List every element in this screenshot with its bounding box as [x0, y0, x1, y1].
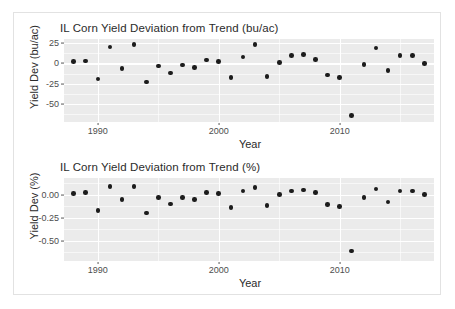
y-tick-label: 0 — [54, 58, 59, 68]
data-point-bu-per-ac — [120, 66, 125, 71]
gridline-minor-vertical — [400, 39, 401, 122]
data-point-bu-per-ac — [253, 42, 258, 47]
data-point-bu-per-ac — [229, 75, 234, 80]
data-point-bu-per-ac — [398, 53, 403, 58]
data-point-percent — [301, 188, 306, 193]
data-point-percent — [132, 184, 137, 189]
y-axis-title-bu-per-ac: Yield Dev (bu/ac) — [28, 21, 40, 113]
data-point-percent — [216, 191, 221, 196]
x-tick-mark — [218, 123, 219, 125]
figure-container: IL Corn Yield Deviation from Trend (bu/a… — [13, 12, 441, 295]
data-point-percent — [204, 190, 209, 195]
x-tick-mark — [339, 262, 340, 264]
x-tick-label: 2010 — [330, 126, 350, 136]
data-point-bu-per-ac — [362, 62, 367, 67]
data-point-percent — [156, 195, 161, 200]
x-tick-mark — [97, 262, 98, 264]
gridline-minor-horizontal — [64, 229, 434, 230]
data-point-percent — [192, 197, 197, 202]
y-tick-label: -0.50 — [38, 236, 59, 246]
data-point-percent — [349, 249, 354, 254]
gridline-minor-horizontal — [64, 94, 434, 95]
data-point-bu-per-ac — [241, 55, 246, 60]
data-point-percent — [180, 195, 185, 200]
x-tick-label: 1990 — [88, 126, 108, 136]
data-point-bu-per-ac — [71, 59, 76, 64]
plot-area-bu-per-ac — [64, 39, 434, 122]
gridline-minor-horizontal — [64, 114, 434, 115]
data-point-percent — [313, 190, 318, 195]
data-point-bu-per-ac — [108, 45, 113, 50]
gridline-minor-horizontal — [64, 53, 434, 54]
x-axis-title-bu-per-ac: Year — [64, 138, 436, 150]
x-tick-label: 2000 — [209, 265, 229, 275]
y-tick-mark — [61, 63, 63, 64]
data-point-bu-per-ac — [410, 53, 415, 58]
chart-percent: IL Corn Yield Deviation from Trend (%) Y… — [14, 154, 442, 294]
chart-title-bu-per-ac: IL Corn Yield Deviation from Trend (bu/a… — [60, 22, 279, 34]
data-point-bu-per-ac — [144, 80, 149, 85]
gridline-minor-horizontal — [64, 252, 434, 253]
gridline-minor-horizontal — [64, 183, 434, 184]
data-point-percent — [144, 211, 149, 216]
data-point-percent — [168, 202, 173, 207]
gridline-minor-vertical — [158, 178, 159, 261]
data-point-bu-per-ac — [192, 65, 197, 70]
data-point-bu-per-ac — [374, 46, 379, 51]
data-point-bu-per-ac — [325, 73, 330, 78]
data-point-percent — [337, 204, 342, 209]
y-tick-mark — [61, 194, 63, 195]
data-point-percent — [96, 208, 101, 213]
y-tick-label: -25 — [46, 79, 59, 89]
y-tick-mark — [61, 83, 63, 84]
data-point-bu-per-ac — [96, 77, 101, 82]
data-point-bu-per-ac — [301, 52, 306, 57]
data-point-bu-per-ac — [156, 64, 161, 69]
gridline-minor-vertical — [158, 39, 159, 122]
gridline-major-vertical — [340, 178, 341, 261]
gridline-major-horizontal — [64, 43, 434, 44]
gridline-major-horizontal — [64, 218, 434, 219]
chart-title-percent: IL Corn Yield Deviation from Trend (%) — [60, 161, 260, 173]
x-axis-title-percent: Year — [64, 277, 436, 289]
data-point-bu-per-ac — [386, 68, 391, 73]
data-point-percent — [374, 187, 379, 192]
data-point-percent — [289, 189, 294, 194]
x-tick-label: 2010 — [330, 265, 350, 275]
data-point-percent — [71, 191, 76, 196]
data-point-bu-per-ac — [313, 57, 318, 62]
data-point-bu-per-ac — [289, 53, 294, 58]
data-point-percent — [362, 195, 367, 200]
gridline-minor-horizontal — [64, 74, 434, 75]
data-point-percent — [386, 200, 391, 205]
data-point-percent — [325, 202, 330, 207]
y-tick-mark — [61, 104, 63, 105]
gridline-major-horizontal — [64, 84, 434, 85]
data-point-bu-per-ac — [180, 63, 185, 68]
data-point-bu-per-ac — [132, 42, 137, 47]
data-point-bu-per-ac — [265, 74, 270, 79]
y-tick-mark — [61, 240, 63, 241]
y-tick-label: 25 — [49, 38, 59, 48]
chart-bu-per-ac: IL Corn Yield Deviation from Trend (bu/a… — [14, 15, 442, 155]
data-point-bu-per-ac — [277, 60, 282, 65]
gridline-minor-horizontal — [64, 206, 434, 207]
data-point-percent — [265, 203, 270, 208]
plot-area-percent — [64, 178, 434, 261]
x-tick-label: 1990 — [88, 265, 108, 275]
gridline-major-horizontal — [64, 63, 434, 64]
gridline-major-vertical — [98, 178, 99, 261]
y-tick-mark — [61, 43, 63, 44]
data-point-bu-per-ac — [204, 58, 209, 63]
data-point-percent — [277, 192, 282, 197]
data-point-percent — [120, 197, 125, 202]
data-point-bu-per-ac — [168, 71, 173, 76]
data-point-percent — [241, 189, 246, 194]
data-point-percent — [229, 205, 234, 210]
y-tick-label: -50 — [46, 99, 59, 109]
gridline-major-vertical — [340, 39, 341, 122]
gridline-major-horizontal — [64, 241, 434, 242]
data-point-bu-per-ac — [337, 75, 342, 80]
y-tick-label: -0.25 — [38, 213, 59, 223]
gridline-major-vertical — [219, 39, 220, 122]
